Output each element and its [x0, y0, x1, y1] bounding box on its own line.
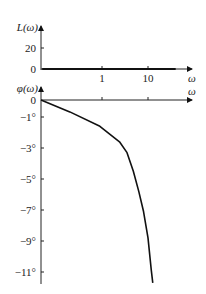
phase-curve	[41, 100, 153, 283]
phase-x-label: ω	[188, 85, 196, 97]
y-tick-label: −1°	[20, 111, 36, 123]
y-tick-label: −7°	[20, 204, 36, 216]
y-tick-label: 0	[31, 94, 37, 106]
y-tick-label: −9°	[20, 235, 36, 247]
y-tick-label: −5°	[20, 173, 36, 185]
y-tick-label: −11°	[15, 266, 36, 278]
magnitude-plot: L(ω) ω 020110	[16, 21, 196, 84]
y-tick-label: 20	[25, 42, 37, 54]
bode-plot: L(ω) ω 020110 φ(ω) ω 0−1°−3°−5°−7°−9°−11…	[0, 0, 206, 294]
y-tick-label: −3°	[20, 142, 36, 154]
phase-plot: φ(ω) ω 0−1°−3°−5°−7°−9°−11°	[15, 82, 196, 284]
magnitude-x-label: ω	[188, 72, 196, 84]
x-tick-label: 10	[143, 72, 155, 84]
x-tick-label: 1	[99, 72, 105, 84]
magnitude-y-label: L(ω)	[16, 21, 39, 34]
y-tick-label: 0	[31, 63, 37, 75]
